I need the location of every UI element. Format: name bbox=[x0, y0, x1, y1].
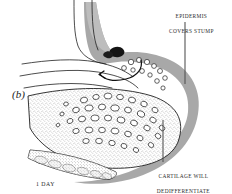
time-caption: 1 DAY bbox=[36, 181, 88, 188]
annotation-cartilage-line1: CARTILAGE WILL bbox=[158, 173, 208, 179]
annotation-cartilage: CARTILAGE WILL DEDIFFERENTIATE bbox=[131, 166, 229, 194]
limb-contour-lines bbox=[20, 0, 138, 88]
panel-label: (b) bbox=[12, 88, 25, 100]
figure-panel: EPIDERMIS COVERS STUMP CARTILAGE WILL DE… bbox=[0, 0, 232, 194]
annotation-epidermis-line1: EPIDERMIS bbox=[176, 13, 208, 19]
annotation-epidermis-line2: COVERS STUMP bbox=[169, 28, 214, 34]
annotation-epidermis: EPIDERMIS COVERS STUMP bbox=[150, 6, 226, 42]
annotation-cartilage-line2: DEDIFFERENTIATE bbox=[157, 188, 210, 194]
